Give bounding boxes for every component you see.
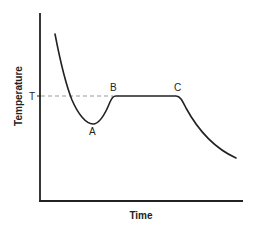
label-a: A — [89, 126, 96, 137]
label-b: B — [110, 82, 117, 93]
label-c: C — [174, 82, 181, 93]
temperature-curve — [55, 34, 236, 158]
label-t: T — [29, 91, 35, 102]
cooling-curve-diagram: T A B C Time Temperature — [0, 0, 255, 228]
x-axis-title: Time — [129, 210, 153, 221]
y-axis-title: Temperature — [13, 66, 24, 126]
